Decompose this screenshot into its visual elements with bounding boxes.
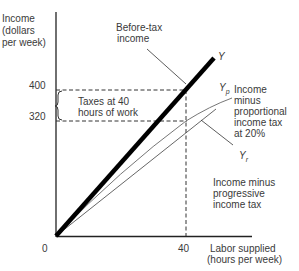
tick-origin: 0 xyxy=(42,243,48,254)
before-tax-label: Before-tax income xyxy=(116,22,162,44)
before-tax-label-line: Before-tax xyxy=(116,22,162,33)
tick-40: 40 xyxy=(178,243,189,254)
yp-desc-line: Income xyxy=(234,84,287,95)
yp-description: Income minus proportional income tax at … xyxy=(234,84,287,139)
tick-400: 400 xyxy=(29,80,46,91)
y-series-symbol: Y xyxy=(218,51,225,62)
taxes-label-line: hours of work xyxy=(78,107,138,118)
y-axis-label: Income (dollars per week) xyxy=(2,13,46,49)
y-line xyxy=(56,58,214,236)
yp-desc-line: minus xyxy=(234,95,287,106)
y-axis-label-line: (dollars xyxy=(2,25,46,37)
yp-desc-line: income tax xyxy=(234,117,287,128)
yr-leader xyxy=(201,120,233,145)
yp-desc-line: proportional xyxy=(234,106,287,117)
yp-desc-line: at 20% xyxy=(234,128,287,139)
yr-description: Income minus progressive income tax xyxy=(213,177,275,210)
taxes-label-line: Taxes at 40 xyxy=(78,96,138,107)
yr-symbol-main: Y xyxy=(239,150,246,161)
y-axis-label-line: per week) xyxy=(2,37,46,49)
taxes-label: Taxes at 40 hours of work xyxy=(78,96,138,118)
yr-desc-line: income tax xyxy=(213,199,275,210)
yp-symbol-sub: p xyxy=(226,88,230,95)
yr-series-symbol: Yr xyxy=(239,150,248,163)
before-tax-label-line: income xyxy=(116,33,162,44)
x-axis-label-line: Labor supplied xyxy=(207,243,282,254)
yp-symbol-main: Y xyxy=(219,82,226,93)
tick-320: 320 xyxy=(29,111,46,122)
before-tax-leader xyxy=(147,49,186,84)
yp-line xyxy=(56,109,216,236)
yr-symbol-sub: r xyxy=(246,156,248,163)
yr-desc-line: progressive xyxy=(213,188,275,199)
y-axis-label-line: Income xyxy=(2,13,46,25)
yp-series-symbol: Yp xyxy=(219,82,230,95)
x-axis-label-line: (hours per week) xyxy=(207,254,282,265)
x-axis-label: Labor supplied (hours per week) xyxy=(207,243,282,265)
yr-desc-line: Income minus xyxy=(213,177,275,188)
